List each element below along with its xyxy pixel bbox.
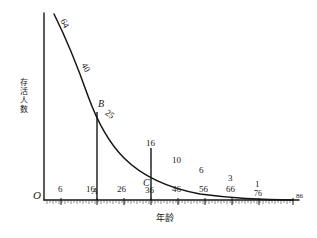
x-tick-label-76: 76 xyxy=(254,190,262,198)
point-label-B: B xyxy=(98,99,104,109)
x-axis-title: 年龄 xyxy=(156,214,174,223)
x-tick-label-46: 46 xyxy=(172,185,181,194)
point-label-C: C xyxy=(143,178,150,188)
chart-canvas xyxy=(0,0,317,238)
curve-value-label-6: 6 xyxy=(199,166,204,175)
curve-value-label-3: 3 xyxy=(228,174,233,183)
x-tick-label-56: 56 xyxy=(199,185,208,194)
curve-value-label-10: 10 xyxy=(172,156,181,165)
x-tick-label-66: 66 xyxy=(226,185,235,194)
x-tick-label-26: 26 xyxy=(117,185,126,194)
curve-value-label-1: 1 xyxy=(255,180,260,189)
curve-value-label-16: 16 xyxy=(146,139,155,148)
survivorship-curve xyxy=(54,14,293,200)
x-tick-label-86: 86 xyxy=(296,193,303,200)
origin-label: O xyxy=(33,190,41,201)
y-axis-title: 存活人数 xyxy=(14,78,28,114)
survivorship-curve-figure: 存活人数 年龄 O 6 16 26 36 46 56 66 76 86 64 4… xyxy=(0,0,317,238)
point-label-A: A xyxy=(92,187,98,196)
x-tick-label-6: 6 xyxy=(58,185,63,194)
